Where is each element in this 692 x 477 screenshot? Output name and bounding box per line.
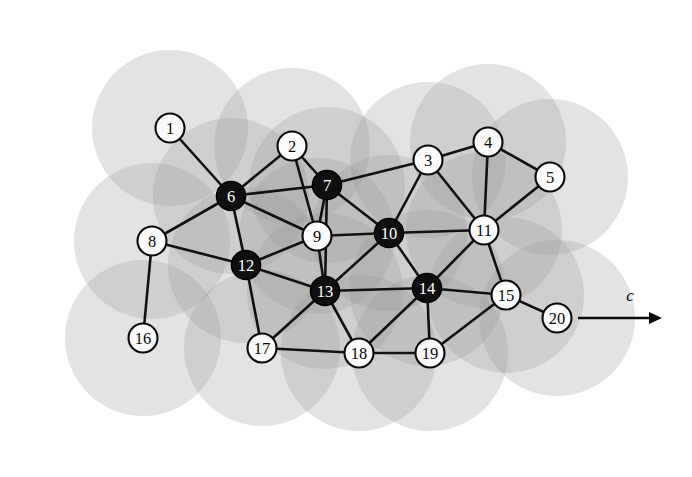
node-circle[interactable] [543,304,572,333]
node-circle[interactable] [492,281,521,310]
node-circle[interactable] [217,182,246,211]
graph-node-15[interactable]: 15 [492,281,521,310]
graph-node-13[interactable]: 13 [311,277,340,306]
graph-canvas: 1234567891011121314151617181920 c [0,0,692,477]
graph-node-1[interactable]: 1 [156,114,185,143]
network-coverage-figure: 1234567891011121314151617181920 c [0,0,692,477]
direction-vector-label: c [626,286,634,305]
node-circle[interactable] [232,251,261,280]
node-circle[interactable] [416,339,445,368]
graph-node-4[interactable]: 4 [474,128,503,157]
node-circle[interactable] [413,274,442,303]
graph-node-7[interactable]: 7 [313,171,342,200]
graph-node-17[interactable]: 17 [248,334,277,363]
graph-node-10[interactable]: 10 [375,219,404,248]
node-circle[interactable] [470,216,499,245]
graph-node-14[interactable]: 14 [413,274,442,303]
node-circle[interactable] [536,163,565,192]
graph-node-19[interactable]: 19 [416,339,445,368]
node-circle[interactable] [278,132,307,161]
graph-node-16[interactable]: 16 [129,324,158,353]
graph-node-5[interactable]: 5 [536,163,565,192]
node-circle[interactable] [313,171,342,200]
graph-node-3[interactable]: 3 [414,146,443,175]
graph-node-18[interactable]: 18 [345,339,374,368]
node-circle[interactable] [345,339,374,368]
node-circle[interactable] [138,227,167,256]
graph-node-11[interactable]: 11 [470,216,499,245]
node-circle[interactable] [303,222,332,251]
graph-node-8[interactable]: 8 [138,227,167,256]
graph-node-2[interactable]: 2 [278,132,307,161]
graph-node-6[interactable]: 6 [217,182,246,211]
graph-node-9[interactable]: 9 [303,222,332,251]
graph-node-20[interactable]: 20 [543,304,572,333]
node-circle[interactable] [311,277,340,306]
node-circle[interactable] [474,128,503,157]
graph-node-12[interactable]: 12 [232,251,261,280]
node-circle[interactable] [156,114,185,143]
node-circle[interactable] [248,334,277,363]
node-circle[interactable] [129,324,158,353]
direction-arrow-head-icon [649,312,662,324]
node-circle[interactable] [375,219,404,248]
node-circle[interactable] [414,146,443,175]
